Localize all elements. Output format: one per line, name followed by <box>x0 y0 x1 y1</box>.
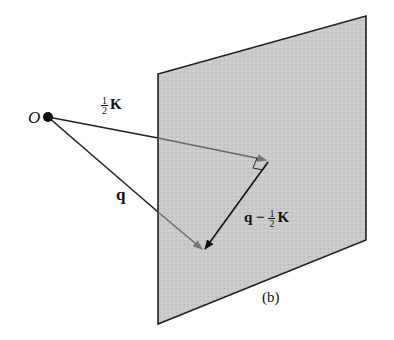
origin-point <box>43 112 53 122</box>
q-vector-outside <box>48 117 158 212</box>
q-label: q <box>116 186 125 203</box>
caption: (b) <box>262 290 280 305</box>
q-minus-prefix: q − <box>244 209 268 225</box>
diagram-canvas <box>0 0 394 340</box>
half-k-vector-symbol: K <box>110 96 122 112</box>
q-minus-denominator: 2 <box>268 219 275 228</box>
origin-label: O <box>28 109 40 126</box>
half-k-denominator: 2 <box>101 106 108 115</box>
half-k-vector-outside <box>48 117 158 138</box>
q-minus-half-k-label: q − 12K <box>244 209 289 228</box>
q-minus-vector-symbol: K <box>277 209 289 225</box>
half-k-label: 12K <box>101 96 122 115</box>
